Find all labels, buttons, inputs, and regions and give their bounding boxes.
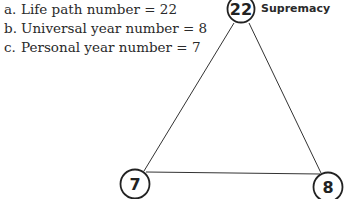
node-bottom-left: 7	[121, 170, 150, 199]
edge-top-right	[249, 23, 321, 173]
edge-top-left	[144, 23, 234, 171]
triangle-diagram: 22 7 8	[0, 0, 349, 199]
node-top: 22	[228, 0, 255, 23]
node-top-annotation: Supremacy	[261, 2, 330, 15]
node-bottom-right: 8	[314, 173, 343, 200]
node-bottom-left-label: 7	[129, 175, 140, 194]
node-bottom-right-label: 8	[322, 178, 333, 197]
edge-bottom	[146, 172, 320, 174]
node-top-label: 22	[230, 0, 252, 19]
